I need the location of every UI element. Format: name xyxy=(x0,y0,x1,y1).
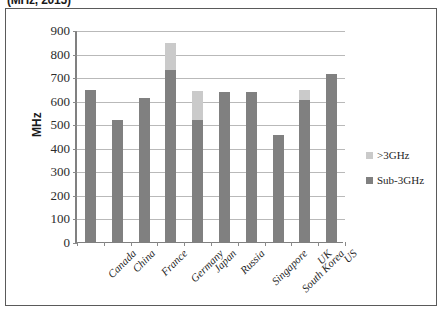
bar-south-korea[interactable] xyxy=(273,135,284,242)
y-axis-tick-label: 600 xyxy=(51,94,71,110)
bar-segment-sub-3ghz xyxy=(246,92,257,242)
x-axis-label-france: France xyxy=(158,247,189,278)
bar-segment-sub-3ghz xyxy=(273,135,284,242)
y-axis-tick xyxy=(73,55,77,56)
chart-legend: >3GHzSub-3GHz xyxy=(366,149,424,199)
bar-us[interactable] xyxy=(326,74,337,242)
x-axis-tick xyxy=(157,242,158,246)
legend-item-sub-3ghz[interactable]: Sub-3GHz xyxy=(366,174,424,186)
y-axis-tick-label: 100 xyxy=(51,211,71,227)
x-axis-tick xyxy=(345,242,346,246)
plot-area: 0100200300400500600700800900 xyxy=(75,31,343,243)
bar-segment-over-3ghz xyxy=(192,91,203,119)
bar-germany[interactable] xyxy=(165,43,176,242)
y-axis-tick xyxy=(73,125,77,126)
y-axis-tick xyxy=(73,102,77,103)
bar-segment-sub-3ghz xyxy=(85,90,96,242)
legend-swatch xyxy=(366,177,373,184)
y-axis-tick-label: 800 xyxy=(51,47,71,63)
chart-title: (MHz, 2015) xyxy=(7,0,71,7)
bar-segment-sub-3ghz xyxy=(192,120,203,242)
gridline xyxy=(77,55,345,56)
bar-segment-over-3ghz xyxy=(299,90,310,99)
y-axis-title: MHz xyxy=(30,112,44,137)
x-axis-tick xyxy=(104,242,105,246)
bar-segment-over-3ghz xyxy=(165,43,176,70)
x-axis-tick xyxy=(131,242,132,246)
bar-russia[interactable] xyxy=(219,92,230,242)
bar-segment-sub-3ghz xyxy=(299,100,310,243)
bar-france[interactable] xyxy=(139,98,150,242)
bar-segment-sub-3ghz xyxy=(112,120,123,242)
y-axis-tick xyxy=(73,196,77,197)
bar-segment-sub-3ghz xyxy=(165,70,176,242)
bar-singapore[interactable] xyxy=(246,92,257,242)
y-axis-tick-label: 700 xyxy=(51,70,71,86)
x-axis-tick xyxy=(77,242,78,246)
y-axis-tick-label: 0 xyxy=(64,235,71,251)
x-axis-label-us: US xyxy=(341,247,359,265)
y-axis-tick-label: 400 xyxy=(51,141,71,157)
x-axis-tick xyxy=(291,242,292,246)
y-axis-tick xyxy=(73,78,77,79)
bar-japan[interactable] xyxy=(192,91,203,242)
y-axis-tick-label: 200 xyxy=(51,188,71,204)
x-axis-tick xyxy=(211,242,212,246)
x-axis-label-russia: Russia xyxy=(238,247,267,276)
bar-segment-sub-3ghz xyxy=(219,92,230,242)
y-axis-tick xyxy=(73,31,77,32)
gridline xyxy=(77,78,345,79)
y-axis-tick xyxy=(73,172,77,173)
chart-frame: MHz 0100200300400500600700800900 >3GHzSu… xyxy=(5,8,437,306)
y-axis-tick xyxy=(73,219,77,220)
bar-canada[interactable] xyxy=(85,90,96,242)
legend-label: >3GHz xyxy=(377,149,409,161)
gridline xyxy=(77,31,345,32)
x-axis-tick xyxy=(238,242,239,246)
y-axis-tick-label: 500 xyxy=(51,117,71,133)
bar-segment-sub-3ghz xyxy=(326,74,337,242)
bar-segment-sub-3ghz xyxy=(139,98,150,242)
x-axis-tick xyxy=(265,242,266,246)
x-axis-tick xyxy=(184,242,185,246)
x-axis-tick xyxy=(318,242,319,246)
legend-label: Sub-3GHz xyxy=(377,174,424,186)
legend-swatch xyxy=(366,152,373,159)
y-axis-tick-label: 900 xyxy=(51,23,71,39)
bar-uk[interactable] xyxy=(299,90,310,242)
legend-item-3ghz[interactable]: >3GHz xyxy=(366,149,424,161)
y-axis-tick-label: 300 xyxy=(51,164,71,180)
y-axis-tick xyxy=(73,149,77,150)
bar-china[interactable] xyxy=(112,120,123,242)
